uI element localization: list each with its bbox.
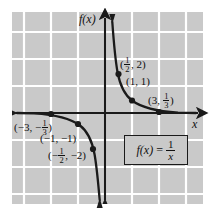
point-label-half-2: (12, 2) [120, 56, 146, 74]
equation-equals-sign: = [156, 144, 163, 156]
equation-box: f(x) = 1 x [124, 135, 188, 165]
point-label-neg1-neg1: (−1, −1) [40, 133, 76, 144]
equation-function-name: f(x) [137, 144, 154, 156]
equation-fraction: 1 x [166, 139, 176, 162]
point-label-neghalf-neg2: (−12, −2) [48, 147, 86, 165]
point-label-1-1: (1, 1) [126, 76, 150, 87]
grid-background [12, 12, 203, 204]
reciprocal-function-figure: f(x) x (12, 2) (1, 1) (3, 13) (−3, −13) … [0, 0, 213, 214]
y-axis-label: f(x) [79, 13, 96, 25]
equation-numerator: 1 [166, 139, 176, 150]
data-point-neg1-neg1 [75, 121, 81, 127]
point-label-3-third: (3, 13) [148, 92, 174, 110]
data-point-neg3-negthird [48, 111, 54, 117]
equation-denominator: x [166, 150, 175, 162]
data-point-1-1 [129, 97, 135, 103]
x-axis-label: x [192, 118, 197, 130]
graph-canvas [0, 0, 213, 214]
data-point-neghalf-neg2 [90, 146, 96, 152]
